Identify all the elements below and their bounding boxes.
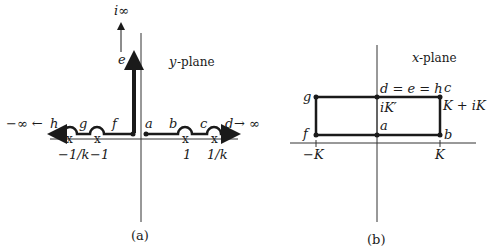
point-a-dot [144,132,149,137]
point-deh-dot [375,95,380,100]
label-d-e-h: d = e = h [380,81,443,96]
label-ik-prime: iK′ [380,100,397,115]
label-b: b [169,116,177,131]
x-plane-title-rest: -plane [419,51,457,65]
label-b-x: b [444,127,452,142]
label-f: f [111,116,119,131]
i-infinity-label: i∞ [114,3,129,18]
label-e-left: e [118,52,126,67]
tick-label-1: 1 [183,147,191,162]
label-d: d [225,116,233,131]
label-k-plus-ik: K + iK [442,98,487,113]
tick-cross-neg-1: x [94,132,101,146]
conformal-map-diagram: i∞ e x x x x −1/k −1 1 1/k −∞ ← h g f a … [0,0,489,251]
label-h: h [50,116,58,131]
tick-label-neg-1: −1 [90,147,109,162]
label-a: a [145,116,153,131]
corner-b-dot [438,133,443,138]
label-g: g [79,116,87,131]
tick-label-k: K [434,147,446,162]
tick-cross-neg-1-over-k: x [66,132,73,146]
tick-label-neg-k: −K [303,147,325,162]
caption-b: (b) [367,232,385,247]
panel-b-x-plane: d = e = h c K + iK iK′ g f a b −K K x -p… [290,45,487,247]
label-g-x: g [303,89,311,104]
y-plane-title-rest: -plane [177,55,215,69]
corner-f-dot [314,133,319,138]
tick-cross-1-over-k: x [211,132,218,146]
contour-right [146,127,236,134]
corner-g-dot [314,95,319,100]
point-f-dot [131,132,136,137]
fundamental-rectangle [316,97,440,135]
tick-label-neg-1-over-k: −1/k [58,147,90,162]
panel-a-y-plane: i∞ e x x x x −1/k −1 1 1/k −∞ ← h g f a … [6,3,260,243]
y-plane-title-var: y [168,54,177,69]
label-c-x: c [444,80,452,95]
label-c: c [200,116,208,131]
contour-left [52,127,133,134]
caption-a: (a) [131,228,149,243]
pos-infinity-label: → ∞ [234,116,260,131]
neg-infinity-label: −∞ ← [6,116,43,131]
tick-label-1-over-k: 1/k [207,147,228,162]
point-a-dot-x [375,133,380,138]
label-f-x: f [302,126,310,141]
label-a-x: a [380,118,388,133]
tick-cross-1: x [182,132,189,146]
